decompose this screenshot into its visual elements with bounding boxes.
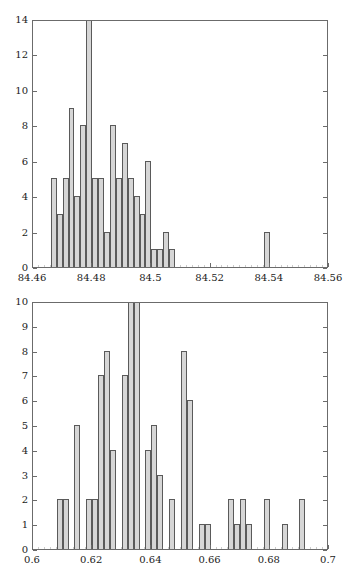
x-axis-minor-tick (127, 547, 128, 549)
x-axis-minor-tick (127, 265, 128, 267)
bottom-histogram-panel: 0123456789100.60.620.640.660.680.7 (0, 292, 354, 583)
x-axis-label: 0.64 (124, 555, 176, 565)
y-axis-tick (33, 376, 37, 377)
x-axis-minor-tick (109, 547, 110, 549)
x-axis-label: 0.7 (302, 555, 354, 565)
x-axis-minor-tick (186, 547, 187, 549)
histogram-bar (299, 499, 305, 549)
y-axis-tick (33, 451, 37, 452)
x-axis-tick (328, 545, 329, 549)
x-axis-minor-tick (156, 265, 157, 267)
x-axis-minor-tick (144, 265, 145, 267)
x-axis-minor-tick (150, 265, 151, 267)
histogram-bar (264, 499, 270, 549)
x-axis-label: 84.54 (243, 273, 295, 283)
x-axis-minor-tick (216, 265, 217, 267)
x-axis-minor-tick (91, 265, 92, 267)
histogram-bar (264, 232, 270, 267)
y-axis-tick (33, 426, 37, 427)
x-axis-label: 84.46 (6, 273, 58, 283)
y-axis-tick (33, 55, 37, 56)
x-axis-minor-tick (192, 265, 193, 267)
y-axis-label: 8 (0, 347, 28, 357)
x-axis-tick (32, 263, 33, 267)
x-axis-minor-tick (162, 265, 163, 267)
y-axis-tick (33, 197, 37, 198)
y-axis-tick-right (323, 376, 327, 377)
y-axis-tick-right (323, 91, 327, 92)
x-axis-minor-tick (62, 547, 63, 549)
x-axis-minor-tick (281, 547, 282, 549)
histogram-bar (282, 524, 288, 549)
x-axis-minor-tick (275, 547, 276, 549)
histogram-bar (187, 400, 193, 549)
x-axis-minor-tick (316, 265, 317, 267)
x-axis-minor-tick (150, 547, 151, 549)
bottom-bars-layer (33, 303, 327, 549)
x-axis-minor-tick (186, 265, 187, 267)
x-axis-minor-tick (44, 547, 45, 549)
top-bars-layer (33, 21, 327, 267)
x-axis-label: 0.68 (243, 555, 295, 565)
x-axis-minor-tick (227, 265, 228, 267)
x-axis-minor-tick (198, 547, 199, 549)
x-axis-minor-tick (227, 547, 228, 549)
x-axis-label: 84.52 (184, 273, 236, 283)
x-axis-minor-tick (97, 547, 98, 549)
x-axis-minor-tick (233, 547, 234, 549)
y-axis-tick (33, 500, 37, 501)
y-axis-tick (33, 91, 37, 92)
y-axis-tick-right (323, 352, 327, 353)
x-axis-minor-tick (168, 547, 169, 549)
x-axis-minor-tick (287, 265, 288, 267)
x-axis-minor-tick (251, 547, 252, 549)
x-axis-minor-tick (115, 265, 116, 267)
x-axis-minor-tick (56, 547, 57, 549)
x-axis-minor-tick (210, 547, 211, 549)
y-axis-label: 4 (0, 192, 28, 202)
x-axis-minor-tick (68, 265, 69, 267)
x-axis-minor-tick (62, 265, 63, 267)
x-axis-minor-tick (73, 265, 74, 267)
x-axis-minor-tick (97, 265, 98, 267)
y-axis-tick (33, 352, 37, 353)
y-axis-tick (33, 268, 37, 269)
y-axis-label: 10 (0, 297, 28, 307)
y-axis-tick-right (323, 401, 327, 402)
x-axis-minor-tick (239, 547, 240, 549)
x-axis-minor-tick (115, 547, 116, 549)
y-axis-tick (33, 126, 37, 127)
x-axis-minor-tick (56, 265, 57, 267)
y-axis-tick-right (323, 500, 327, 501)
y-axis-tick (33, 401, 37, 402)
x-axis-minor-tick (174, 265, 175, 267)
y-axis-tick-right (323, 525, 327, 526)
x-axis-minor-tick (245, 547, 246, 549)
x-axis-minor-tick (180, 547, 181, 549)
x-axis-minor-tick (109, 265, 110, 267)
y-axis-label: 8 (0, 121, 28, 131)
x-axis-minor-tick (85, 547, 86, 549)
x-axis-minor-tick (292, 547, 293, 549)
x-axis-minor-tick (156, 547, 157, 549)
x-axis-label: 84.56 (302, 273, 354, 283)
histogram-bar (74, 425, 80, 549)
y-axis-label: 3 (0, 471, 28, 481)
histogram-bar (63, 499, 69, 549)
x-axis-minor-tick (73, 547, 74, 549)
y-axis-label: 12 (0, 50, 28, 60)
y-axis-label: 9 (0, 322, 28, 332)
y-axis-tick-right (323, 268, 327, 269)
y-axis-tick-right (323, 426, 327, 427)
x-axis-minor-tick (210, 265, 211, 267)
x-axis-minor-tick (245, 265, 246, 267)
x-axis-minor-tick (198, 265, 199, 267)
y-axis-tick-right (323, 233, 327, 234)
y-axis-label: 5 (0, 421, 28, 431)
x-axis-minor-tick (133, 547, 134, 549)
x-axis-minor-tick (139, 547, 140, 549)
y-axis-tick-right (323, 302, 327, 303)
x-axis-minor-tick (269, 547, 270, 549)
y-axis-tick (33, 233, 37, 234)
y-axis-tick (33, 302, 37, 303)
